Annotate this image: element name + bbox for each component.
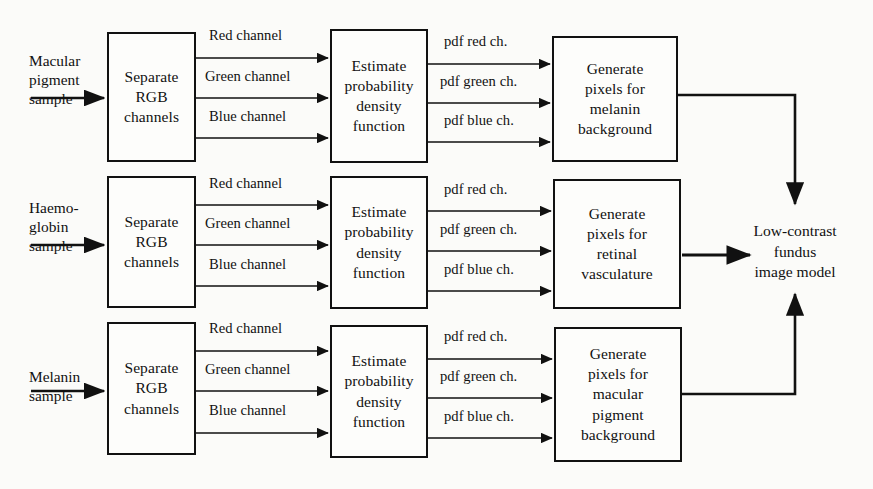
edge-label-pdf-blue-row1: pdf blue ch. — [444, 112, 514, 129]
edge-label-blue-channel-row3: Blue channel — [209, 402, 286, 419]
box-estimate-pdf-row1[interactable]: Estimate probability density function — [330, 29, 428, 163]
edge-label-pdf-green-row1: pdf green ch. — [440, 73, 517, 90]
edge-label-pdf-red-row1: pdf red ch. — [444, 33, 507, 50]
edge-label-pdf-red-row2: pdf red ch. — [444, 181, 507, 198]
edge-generate-row3-to-output — [682, 294, 795, 394]
box-separate-rgb-channels-row3[interactable]: Separate RGB channels — [107, 322, 196, 455]
edge-label-green-channel-row1: Green channel — [205, 68, 290, 85]
box-generate-macular-pigment-background[interactable]: Generate pixels for macular pigment back… — [554, 327, 682, 462]
edge-label-blue-channel-row1: Blue channel — [209, 108, 286, 125]
edge-label-blue-channel-row2: Blue channel — [209, 256, 286, 273]
box-estimate-pdf-row2[interactable]: Estimate probability density function — [330, 176, 428, 309]
box-estimate-pdf-row3[interactable]: Estimate probability density function — [330, 325, 428, 458]
edge-label-green-channel-row3: Green channel — [205, 361, 290, 378]
edge-label-pdf-red-row3: pdf red ch. — [444, 328, 507, 345]
box-generate-retinal-vasculature[interactable]: Generate pixels for retinal vasculature — [553, 179, 681, 309]
edge-label-pdf-green-row2: pdf green ch. — [440, 221, 517, 238]
edge-label-red-channel-row3: Red channel — [209, 320, 282, 337]
edge-label-pdf-blue-row2: pdf blue ch. — [444, 261, 514, 278]
box-generate-melanin-background[interactable]: Generate pixels for melanin background — [552, 36, 678, 162]
edge-label-pdf-green-row3: pdf green ch. — [440, 368, 517, 385]
edge-label-pdf-blue-row3: pdf blue ch. — [444, 408, 514, 425]
source-label-row3: Melanin sample — [29, 368, 109, 406]
source-label-row1: Macular pigment sample — [29, 52, 107, 108]
edge-generate-row1-to-output — [678, 95, 795, 204]
edge-label-red-channel-row1: Red channel — [209, 27, 282, 44]
edge-label-green-channel-row2: Green channel — [205, 215, 290, 232]
output-label-low-contrast-fundus-image-model: Low-contrast fundus image model — [722, 221, 868, 283]
edge-label-red-channel-row2: Red channel — [209, 175, 282, 192]
box-separate-rgb-channels-row1[interactable]: Separate RGB channels — [107, 32, 196, 162]
source-label-row2: Haemo- globin sample — [29, 199, 109, 255]
diagram-canvas: Macular pigment sample Separate RGB chan… — [0, 0, 873, 489]
box-separate-rgb-channels-row2[interactable]: Separate RGB channels — [107, 176, 196, 308]
